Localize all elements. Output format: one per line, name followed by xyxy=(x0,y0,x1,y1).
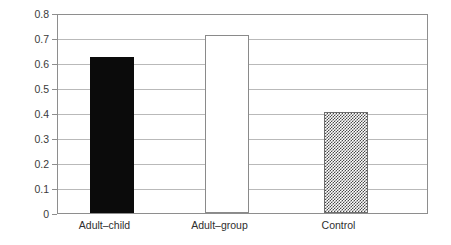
y-tick-label-0.2: 0.2 xyxy=(6,159,49,170)
y-tick-label-0.1: 0.1 xyxy=(6,184,49,195)
x-tick-label-adult-group: Adult–group xyxy=(172,219,267,231)
bar-adult-child xyxy=(90,57,134,213)
bar-control xyxy=(324,112,368,213)
y-tick-label-0.7: 0.7 xyxy=(6,34,49,45)
y-tick-label-0.4: 0.4 xyxy=(6,109,49,120)
y-tick-mark-0 xyxy=(52,214,57,215)
bar-chart: 0.8 0.7 0.6 0.5 0.4 0.3 0.2 0.1 0 Adult–… xyxy=(0,0,451,245)
x-tick-label-control: Control xyxy=(291,219,386,231)
y-tick-label-0.5: 0.5 xyxy=(6,84,49,95)
x-tick-label-adult-child: Adult–child xyxy=(57,219,152,231)
y-tick-label-0.6: 0.6 xyxy=(6,59,49,70)
bar-adult-group xyxy=(205,35,249,213)
y-tick-label-0.8: 0.8 xyxy=(6,9,49,20)
plot-area xyxy=(57,14,428,214)
y-tick-label-0.3: 0.3 xyxy=(6,134,49,145)
y-tick-label-0: 0 xyxy=(6,209,49,220)
